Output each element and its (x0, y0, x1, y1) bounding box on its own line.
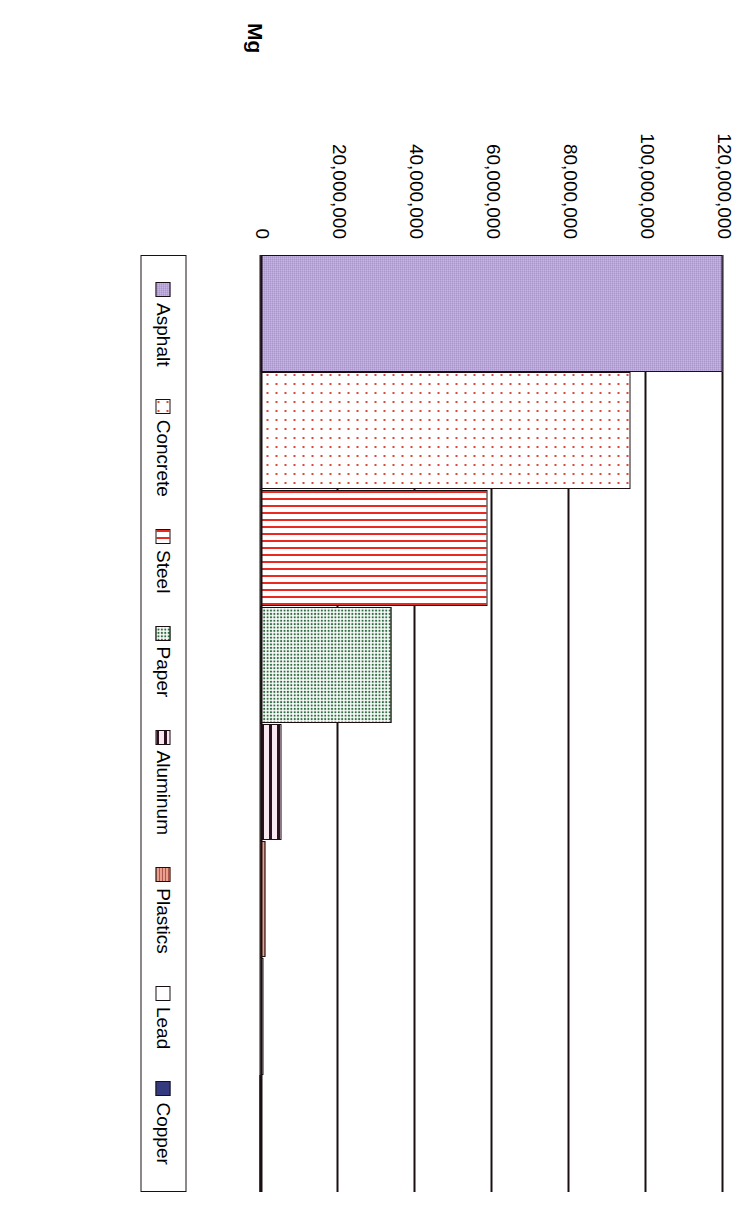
bar-chart-figure: Mg 120,000,000 100,000,000 80,000,000 60… (0, 0, 749, 1212)
legend-item-plastics[interactable]: Plastics (154, 867, 173, 953)
gridline (721, 255, 723, 1192)
legend-item-steel[interactable]: Steel (154, 529, 173, 593)
legend-label: Lead (154, 1007, 173, 1049)
legend-swatch-icon (156, 867, 171, 882)
legend-swatch-icon (156, 730, 171, 745)
legend-swatch-icon (156, 282, 171, 297)
legend-label: Paper (154, 647, 173, 698)
plot-area (260, 255, 722, 1192)
legend-item-lead[interactable]: Lead (154, 986, 173, 1049)
legend-label: Concrete (154, 420, 173, 497)
axis-baseline (260, 255, 263, 1192)
tick-label: 100,000,000 (635, 0, 657, 239)
bar-concrete (260, 372, 630, 489)
tick-label: 40,000,000 (404, 0, 426, 239)
legend-label: Asphalt (154, 303, 173, 366)
chart-rotation-wrapper: Mg 120,000,000 100,000,000 80,000,000 60… (0, 0, 749, 1212)
tick-label: 120,000,000 (712, 0, 734, 239)
legend-swatch-icon (156, 529, 171, 544)
legend-item-asphalt[interactable]: Asphalt (154, 282, 173, 366)
legend-label: Copper (154, 1102, 173, 1164)
tick-label: 60,000,000 (481, 0, 503, 239)
bar-steel (260, 490, 487, 607)
legend-item-aluminum[interactable]: Aluminum (154, 730, 173, 835)
legend-item-copper[interactable]: Copper (154, 1081, 173, 1164)
legend-item-paper[interactable]: Paper (154, 626, 173, 698)
legend-label: Plastics (154, 888, 173, 953)
legend-swatch-icon (156, 399, 171, 414)
tick-label: 80,000,000 (558, 0, 580, 239)
bar-aluminum (260, 724, 281, 841)
bar-paper (260, 607, 391, 724)
legend-swatch-icon (156, 986, 171, 1001)
bar-asphalt (260, 255, 722, 372)
legend-swatch-icon (156, 1081, 171, 1096)
tick-label: 20,000,000 (327, 0, 349, 239)
tick-label: 0 (250, 0, 272, 239)
legend-label: Aluminum (154, 751, 173, 835)
legend-item-concrete[interactable]: Concrete (154, 399, 173, 497)
legend-label: Steel (154, 550, 173, 593)
gridline (644, 255, 646, 1192)
chart-legend: AsphaltConcreteSteelPaperAluminumPlastic… (140, 255, 186, 1192)
legend-swatch-icon (156, 626, 171, 641)
